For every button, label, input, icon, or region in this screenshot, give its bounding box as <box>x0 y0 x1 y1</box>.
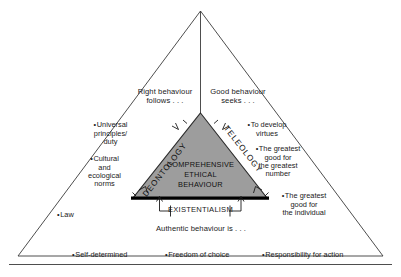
deontology-item-2: Law <box>60 210 74 219</box>
deontology-item-0: Universal principles/ duty <box>94 120 128 146</box>
teleology-item-1-wrap: • The greatest good for the greatest num… <box>247 137 309 178</box>
existentialism-item-2: Responsibility for action <box>265 250 343 259</box>
existentialism-heading: Authentic behaviour is . . . <box>136 225 266 234</box>
teleology-item-2-wrap: • The greatest good for the individual <box>272 184 336 217</box>
deontology-heading: Right behaviour follows . . . <box>134 88 196 105</box>
teleology-item-0-wrap: • To develop virtues <box>238 113 296 138</box>
teleology-item-1: The greatest good for the greatest numbe… <box>258 144 300 178</box>
teleology-item-2: The greatest good for the individual <box>282 191 326 217</box>
existentialism-item-1-wrap: • Freedom of choice <box>165 243 257 260</box>
deontology-item-2-wrap: • Law <box>57 203 107 220</box>
teleology-item-0: To develop virtues <box>251 120 287 137</box>
existentialism-item-0: Self-determined <box>75 250 127 259</box>
diagram-canvas: DEONTOLOGY TELEOLOGY EXISTENTIALISM COMP… <box>0 0 401 277</box>
existentialism-item-0-wrap: • Self-determined <box>72 243 152 260</box>
deontology-item-0-wrap: • Universal principles/ duty <box>84 113 137 146</box>
existentialism-item-1: Freedom of choice <box>168 250 229 259</box>
deontology-item-1: Cultural and ecological norms <box>88 154 121 188</box>
ethics-triangle-figure <box>0 0 401 277</box>
teleology-heading: Good behaviour seeks . . . <box>205 88 271 105</box>
deontology-item-1-wrap: • Cultural and ecological norms <box>78 147 131 188</box>
inner-triangle-title: COMPREHENSIVE ETHICAL BEHAVIOUR <box>155 160 246 189</box>
existentialism-item-2-wrap: • Responsibility for action <box>262 243 382 260</box>
edge-label-existentialism: EXISTENTIALISM <box>147 206 254 215</box>
